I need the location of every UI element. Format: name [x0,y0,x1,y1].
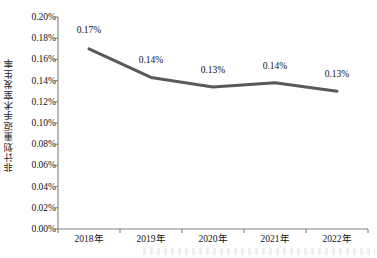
data-point-label: 0.14% [245,61,305,72]
line-chart: 非计划重返手术室发生率 0.20%0.18%0.16%0.14%0.12%0.1… [0,0,377,258]
y-axis-tick-label: 0.04% [16,182,56,192]
y-axis-tick-label: 0.10% [16,118,56,128]
y-axis-tick-label: 0.18% [16,33,56,43]
page-footer-artifact [143,248,375,255]
y-axis-tick-label: 0.14% [16,76,56,86]
data-point-label: 0.14% [121,55,181,66]
y-axis-tick-label: 0.20% [16,12,56,22]
y-axis-tick-label: 0.12% [16,97,56,107]
data-point-label: 0.17% [59,25,119,36]
y-axis-title-label: 非计划重返手术室发生率 [4,58,14,172]
y-axis-tick-label: 0.08% [16,139,56,149]
y-axis-tick-label: 0.00% [16,224,56,234]
y-axis-tick-label: 0.16% [16,54,56,64]
y-axis-tick-labels: 0.20%0.18%0.16%0.14%0.12%0.10%0.08%0.06%… [14,0,56,258]
y-axis-tick-label: 0.02% [16,203,56,213]
data-point-label: 0.13% [307,69,367,80]
data-point-label: 0.13% [183,65,243,76]
data-point-labels: 0.17%0.14%0.13%0.14%0.13% [58,0,368,258]
y-axis-tick-label: 0.06% [16,160,56,170]
